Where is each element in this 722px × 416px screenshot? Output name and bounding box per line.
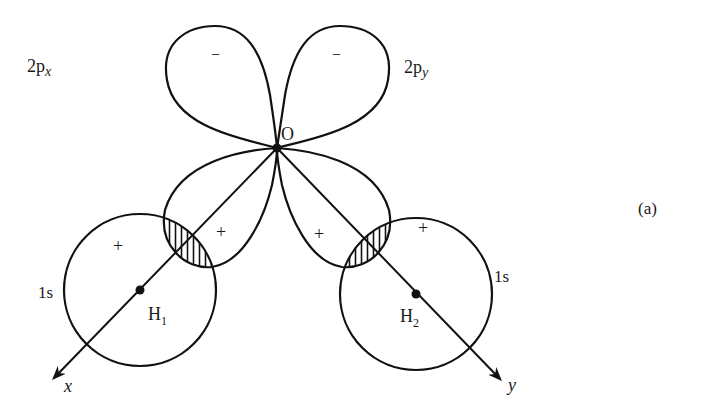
y-axis-label: y [506,375,516,395]
2px-label: 2px [27,56,52,79]
py-lower-sign: + [314,224,324,244]
x-axis [54,148,277,378]
y-axis [277,148,500,379]
h2-nucleus [412,290,421,299]
h1-sign: + [113,236,123,256]
px-upper-sign: − [211,46,220,63]
h2-label: H2 [400,306,419,330]
2py-label: 2py [404,57,429,80]
2px-upper-lobe [166,26,277,148]
oxygen-label: O [281,124,294,144]
h2-sign: + [418,218,428,238]
h1-1s-label: 1s [38,283,53,302]
oxygen-nucleus [273,144,282,153]
h2-1s-label: 1s [494,267,509,286]
water-orbital-overlap-diagram: O H1 H2 2px 2py 1s 1s − − + + + + x y (a… [0,0,722,416]
py-upper-sign: − [332,46,341,63]
px-lower-sign: + [216,222,226,242]
h1-nucleus [136,286,145,295]
panel-label: (a) [638,199,657,218]
h1-label: H1 [148,304,167,328]
x-axis-label: x [63,376,72,396]
